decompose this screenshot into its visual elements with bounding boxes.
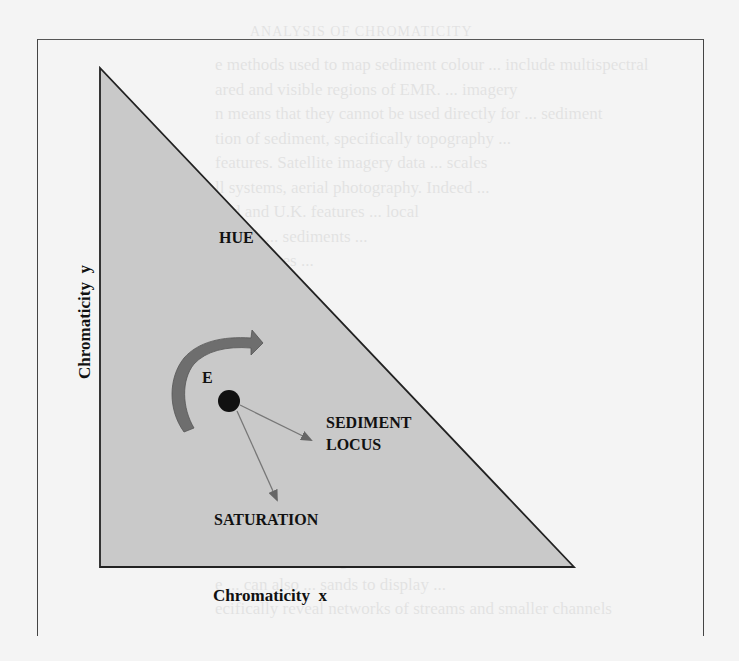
point-e-marker	[218, 390, 240, 412]
sediment-locus-line2: LOCUS	[326, 434, 411, 456]
chromaticity-diagram	[0, 0, 739, 661]
hue-label: HUE	[219, 229, 254, 247]
sediment-locus-label: SEDIMENT LOCUS	[326, 412, 411, 456]
chromaticity-triangle	[100, 68, 574, 567]
y-axis-label: Chromaticity y	[75, 265, 95, 379]
saturation-label: SATURATION	[214, 511, 318, 529]
point-e-label: E	[202, 369, 213, 387]
sediment-locus-line1: SEDIMENT	[326, 412, 411, 434]
x-axis-label: Chromaticity x	[213, 586, 327, 606]
